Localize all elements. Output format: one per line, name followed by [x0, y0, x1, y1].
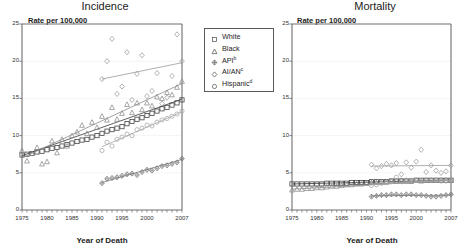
x-tick-label: 1985 [330, 215, 354, 221]
legend-item-hispanic[interactable]: Hispanicd [205, 77, 271, 89]
x-tick-label: 2000 [404, 215, 428, 221]
square-marker-icon [209, 31, 220, 42]
legend: WhiteBlackAPIbAI/ANcHispanicd [204, 28, 274, 92]
y-tick-label: 5 [272, 169, 289, 175]
series-aian [369, 147, 453, 177]
legend-item-black[interactable]: Black [205, 43, 271, 55]
y-tick-label: 25 [272, 20, 289, 26]
x-tick-label: 1990 [355, 215, 379, 221]
figure-root: Incidence Rate per 100,000 Year of Death… [0, 0, 459, 251]
diamond-marker-icon [209, 66, 220, 77]
circle-marker-icon [209, 78, 220, 89]
y-tick-label: 10 [272, 132, 289, 138]
legend-item-label: Hispanicd [222, 78, 252, 88]
legend-item-aian[interactable]: AI/ANc [205, 66, 271, 78]
legend-item-label: AI/ANc [222, 66, 243, 76]
triangle-marker-icon [209, 43, 220, 54]
legend-item-label: White [222, 32, 240, 41]
y-tick-label: 20 [272, 57, 289, 63]
x-tick-label: 2007 [439, 215, 459, 221]
x-tick-label: 1975 [280, 215, 304, 221]
x-tick-label: 1980 [305, 215, 329, 221]
legend-item-label: Black [222, 44, 240, 53]
x-tick-label: 1995 [379, 215, 403, 221]
y-tick-label: 0 [272, 206, 289, 212]
y-tick-label: 15 [272, 94, 289, 100]
legend-item-label: APIb [222, 55, 236, 65]
legend-item-api[interactable]: APIb [205, 54, 271, 66]
legend-item-white[interactable]: White [205, 31, 271, 43]
diamond-filled-marker-icon [209, 54, 220, 65]
series-api [369, 192, 453, 199]
